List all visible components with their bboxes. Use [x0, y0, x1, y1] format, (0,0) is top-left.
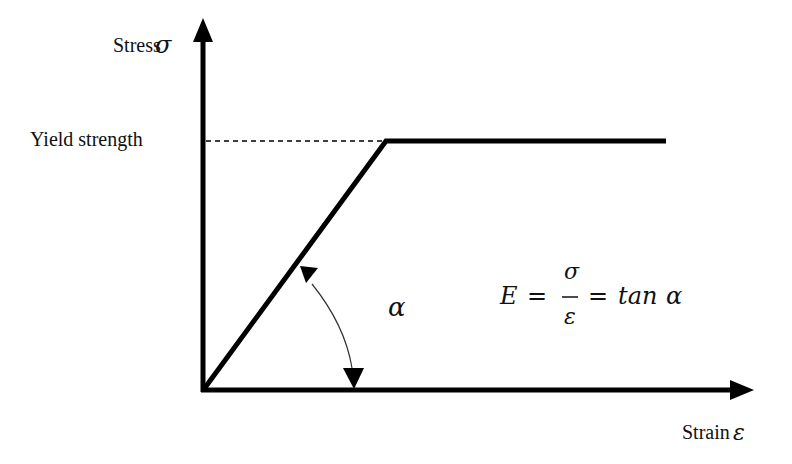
y-axis-arrowhead-icon — [193, 18, 213, 42]
angle-arrowhead-bottom-icon — [343, 368, 364, 389]
formula-rhs-arg: α — [666, 282, 682, 310]
stress-strain-diagram: Stress σ Yield strength Strain ε α E = σ… — [0, 0, 792, 464]
angle-arrowhead-top-icon — [300, 266, 318, 283]
y-axis — [193, 18, 213, 392]
x-axis-arrowhead-icon — [730, 380, 754, 400]
angle-label: α — [388, 292, 406, 322]
yield-strength-label: Yield strength — [30, 128, 143, 151]
formula-numerator: σ — [564, 259, 580, 284]
angle-arc — [300, 266, 364, 389]
x-axis-symbol: ε — [733, 420, 745, 445]
y-axis-label: Stress — [113, 34, 161, 56]
modulus-formula: E = σ ε = tan α — [499, 259, 682, 329]
x-axis-label: Strain — [682, 421, 730, 443]
formula-denominator: ε — [564, 304, 576, 329]
formula-rhs-fn: tan — [618, 282, 657, 310]
formula-equals-2: = — [588, 282, 608, 310]
x-axis — [201, 380, 754, 400]
stress-strain-curve — [204, 141, 666, 389]
y-axis-symbol: σ — [155, 31, 172, 59]
formula-equals-1: = — [527, 282, 547, 310]
formula-lhs: E — [499, 282, 518, 310]
